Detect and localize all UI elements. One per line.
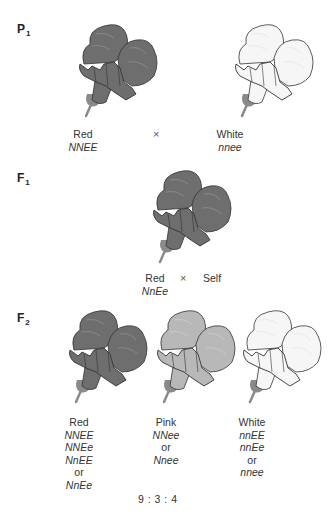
flower-red-p1 bbox=[66, 20, 164, 120]
generation-subscript: 2 bbox=[25, 318, 29, 327]
flower-red-f1 bbox=[140, 166, 238, 266]
phenotype: White bbox=[202, 128, 258, 141]
flower-pink-f2 bbox=[144, 306, 242, 406]
f2-pink-label: Pink NNee or Nnee bbox=[141, 416, 191, 466]
genotype: NnEe bbox=[135, 285, 175, 298]
genotype: nnEE bbox=[227, 429, 277, 442]
genotype: nnee bbox=[227, 466, 277, 479]
genotype: nnEe bbox=[227, 441, 277, 454]
generation-letter: F bbox=[17, 311, 24, 325]
generation-label-f1: F1 bbox=[17, 171, 30, 187]
generation-subscript: 1 bbox=[25, 178, 29, 187]
genotype: Nnee bbox=[141, 454, 191, 467]
f2-white-label: White nnEE nnEe or nnee bbox=[227, 416, 277, 479]
phenotype: Pink bbox=[141, 416, 191, 429]
flower-red-f2 bbox=[56, 306, 154, 406]
genotype: nnee bbox=[202, 141, 258, 154]
flower-white-f2 bbox=[230, 306, 328, 406]
genotype: NnEe bbox=[54, 479, 104, 492]
phenotype: Red bbox=[54, 416, 104, 429]
genotype: NNEE bbox=[54, 429, 104, 442]
phenotypic-ratio: 9 : 3 : 4 bbox=[138, 493, 178, 505]
generation-subscript: 1 bbox=[26, 29, 30, 38]
cross-symbol-f1: × bbox=[180, 272, 186, 284]
generation-label-f2: F2 bbox=[17, 311, 30, 327]
flower-white-p1 bbox=[222, 20, 320, 120]
or-connector: or bbox=[227, 454, 277, 467]
genotype: NnEE bbox=[54, 454, 104, 467]
cross-symbol-p1: × bbox=[153, 128, 159, 140]
generation-letter: F bbox=[17, 171, 24, 185]
f1-label: Red NnEe bbox=[135, 272, 175, 297]
generation-label-p1: P1 bbox=[17, 22, 30, 38]
phenotype: Red bbox=[135, 272, 175, 285]
f2-red-label: Red NNEE NNEe NnEE or NnEe bbox=[54, 416, 104, 491]
generation-letter: P bbox=[17, 22, 25, 36]
phenotype: White bbox=[227, 416, 277, 429]
or-connector: or bbox=[54, 466, 104, 479]
cross-partner: Self bbox=[197, 272, 227, 285]
or-connector: or bbox=[141, 441, 191, 454]
p1-red-label: Red NNEE bbox=[55, 128, 111, 153]
genotype: NNee bbox=[141, 429, 191, 442]
genotype: NNEe bbox=[54, 441, 104, 454]
genotype: NNEE bbox=[55, 141, 111, 154]
phenotype: Red bbox=[55, 128, 111, 141]
f1-self-label: Self bbox=[197, 272, 227, 285]
p1-white-label: White nnee bbox=[202, 128, 258, 153]
